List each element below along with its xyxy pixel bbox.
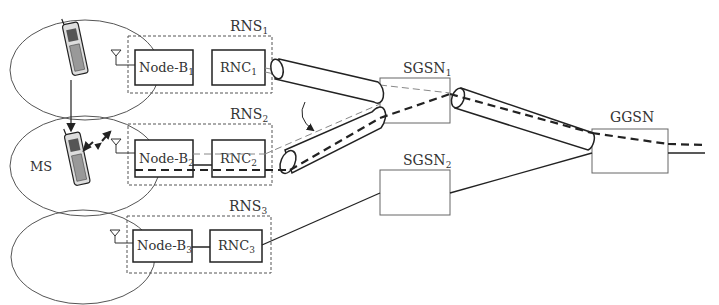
ggsn: GGSN [592,109,668,173]
svg-text:SGSN2: SGSN2 [403,152,451,170]
antenna-icon [111,50,135,65]
ms-label: MS [30,159,52,174]
svg-text:Node-B1: Node-B1 [139,60,194,77]
ms-phone-icon [63,126,91,186]
rnc-1: RNC1 [212,50,265,85]
rns-2-label: RNS2 [230,106,268,124]
svg-text:Node-B3: Node-B3 [137,238,192,255]
rns-3-label: RNS3 [229,198,267,216]
antenna-icon [110,230,133,243]
rnc-3: RNC3 [210,230,262,262]
umts-handover-diagram: MS RNS1 RNS2 RNS3 Node-B1 RNC1 Node-B2 R… [0,0,719,305]
gtp-tunnel-3 [449,87,594,150]
svg-text:SGSN1: SGSN1 [403,60,451,78]
gtp-tunnel-2 [277,107,386,176]
svg-text:GGSN: GGSN [610,109,654,125]
antenna-icon [111,139,135,153]
radio-link-icon [84,132,110,150]
node-b-1: Node-B1 [135,50,194,85]
rns-1-label: RNS1 [230,18,268,36]
svg-text:Node-B2: Node-B2 [139,151,194,168]
sgsn-2: SGSN2 [380,152,451,215]
mobile-phone-icon [61,16,89,76]
gtp-tunnel-1 [269,58,384,103]
handover-arrow [302,102,313,130]
node-b-2: Node-B2 [135,140,194,177]
node-b-3: Node-B3 [133,230,192,262]
rnc-2: RNC2 [212,140,265,177]
